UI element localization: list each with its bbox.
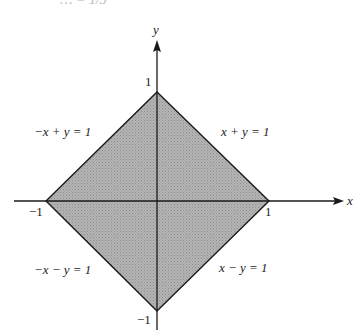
y-tick-neg: −1: [137, 312, 151, 327]
x-tick-pos: 1: [265, 204, 272, 219]
x-axis-label: x: [346, 193, 353, 208]
header-partial-text: … = 1/3: [60, 0, 107, 7]
diamond-region-diagram: … = 1/3 x y 1 −1 −1 1 −x + y = 1 x + y =…: [0, 0, 360, 330]
x-tick-neg: −1: [29, 204, 43, 219]
eq-upper-left: −x + y = 1: [34, 124, 91, 139]
y-axis-label: y: [151, 22, 159, 37]
eq-lower-right: x − y = 1: [218, 260, 268, 275]
eq-lower-left: −x − y = 1: [34, 262, 91, 277]
eq-upper-right: x + y = 1: [220, 124, 270, 139]
y-tick-pos: 1: [145, 74, 152, 89]
